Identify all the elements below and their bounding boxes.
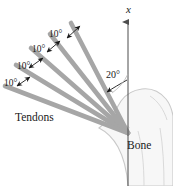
angle-10-b-label: 10° <box>32 45 45 55</box>
bone-label: Bone <box>127 140 151 152</box>
figure-canvas <box>0 0 173 186</box>
angle-10-c-arrow <box>29 58 43 68</box>
tendons-label: Tendons <box>15 112 54 124</box>
angle-10-a-label: 10° <box>49 30 62 40</box>
angle-10-c-label: 10° <box>17 62 30 72</box>
angle-10-d-label: 10° <box>4 79 17 89</box>
tendon-bone-figure: x 20° 10° 10° 10° 10° Tendons Bone <box>0 0 173 186</box>
angle-20-label: 20° <box>106 70 120 80</box>
angle-20-leader <box>107 80 127 92</box>
x-axis-label: x <box>126 4 131 15</box>
angle-10-d-arrow <box>17 77 30 86</box>
